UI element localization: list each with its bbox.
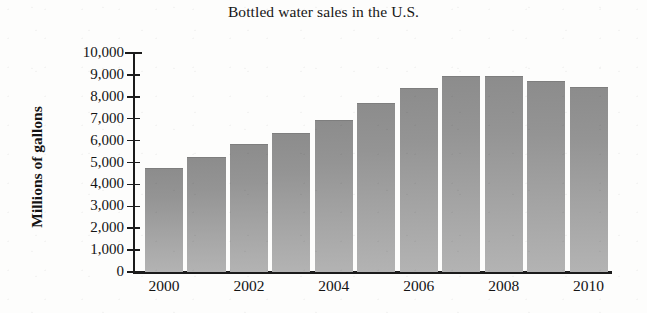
y-axis-tick-label-text: 3,000: [52, 197, 124, 214]
y-axis-tick-label: 4,000: [48, 175, 124, 191]
y-axis-tick: [127, 162, 140, 164]
y-axis-tick: [127, 184, 140, 186]
bar: [400, 88, 438, 272]
bar: [442, 76, 480, 272]
y-axis-tick-label-text: 6,000: [52, 132, 124, 149]
y-axis-tick: [127, 74, 140, 76]
y-axis-tick-label-text: 1,000: [52, 241, 124, 258]
y-axis-tick-label: 9,000: [48, 66, 124, 82]
y-axis-tick: [127, 206, 140, 208]
y-axis-tick: [127, 140, 140, 142]
y-axis-tick-label: 1,000: [48, 241, 124, 257]
y-axis-tick-label-text: 2,000: [52, 219, 124, 236]
y-axis-tick-label-text: 0: [52, 263, 124, 280]
y-axis-tick-label: 10,000: [48, 44, 124, 60]
y-axis-tick: [127, 249, 140, 251]
bar: [485, 76, 523, 272]
y-axis-tick-label-text: 9,000: [52, 66, 124, 83]
y-axis-tick-label: 2,000: [48, 219, 124, 235]
y-axis-tick: [127, 227, 140, 229]
x-axis-tick-label: 2008: [473, 277, 535, 295]
y-axis-tick-label-text: 10,000: [52, 44, 124, 61]
chart-figure: Bottled water sales in the U.S. Millions…: [0, 0, 647, 313]
y-axis-tick: [127, 118, 140, 120]
bar: [230, 144, 268, 272]
y-axis-tick-label-text: 7,000: [52, 110, 124, 127]
x-axis-tick-label: 2010: [558, 277, 620, 295]
bar: [145, 168, 183, 272]
y-axis-tick-label: 6,000: [48, 132, 124, 148]
bar: [187, 157, 225, 272]
x-axis-tick-label: 2002: [218, 277, 280, 295]
bar: [357, 103, 395, 272]
bar: [570, 87, 608, 272]
y-axis-tick-label: 3,000: [48, 197, 124, 213]
bar: [272, 133, 310, 272]
bar: [315, 120, 353, 272]
y-axis-tick-label: 5,000: [48, 154, 124, 170]
y-axis-tick: [125, 52, 142, 54]
plot-area: 01,0002,0003,0004,0005,0006,0007,0008,00…: [0, 0, 647, 313]
y-axis-tick-label-text: 5,000: [52, 154, 124, 171]
x-axis-tick-label: 2000: [133, 277, 195, 295]
bar: [527, 81, 565, 272]
y-axis-tick-label: 0: [48, 263, 124, 279]
x-axis-tick-label: 2006: [388, 277, 450, 295]
x-axis-tick-label: 2004: [303, 277, 365, 295]
y-axis-tick: [127, 271, 140, 273]
y-axis-tick-label: 8,000: [48, 88, 124, 104]
y-axis-tick-label-text: 4,000: [52, 175, 124, 192]
y-axis-tick: [127, 96, 140, 98]
y-axis-tick-label-text: 8,000: [52, 88, 124, 105]
y-axis-tick-label: 7,000: [48, 110, 124, 126]
